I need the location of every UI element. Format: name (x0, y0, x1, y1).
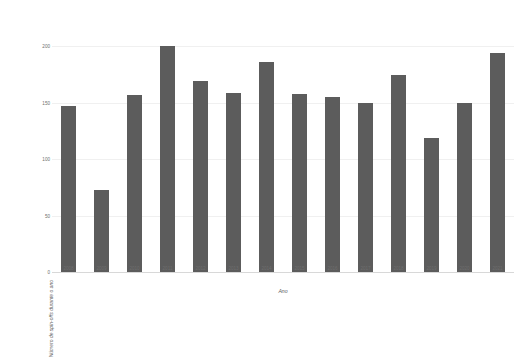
y-axis-tick-label: 150 (36, 100, 50, 105)
x-axis-tick-label: 2009 (96, 266, 106, 271)
y-axis-tick-label: 0 (36, 270, 50, 275)
y-axis-tick-label: 100 (36, 157, 50, 162)
x-axis-tick-label: 2008 (63, 266, 73, 271)
x-axis-tick-label: 2018 (393, 266, 403, 271)
bar (259, 62, 274, 272)
bar (391, 75, 406, 272)
bar (193, 81, 208, 272)
x-axis-tick-label: 2015 (294, 266, 304, 271)
bar (490, 53, 505, 272)
gridline (52, 103, 514, 104)
y-axis-tick-label: 50 (36, 213, 50, 218)
x-axis-tick-label: 2017 (360, 266, 370, 271)
plot-area: 050100150200250 200820092010201120122013… (52, 0, 514, 272)
x-axis-line (52, 272, 514, 273)
bar (61, 106, 76, 272)
x-axis-tick-label: 2011 (163, 266, 173, 271)
y-axis-title: Número de spin-offs durante o ano (48, 280, 54, 357)
gridline (52, 46, 514, 47)
x-axis-tick-label: 2016 (327, 266, 337, 271)
x-axis-tick-label: 2020 (459, 266, 469, 271)
bar (127, 95, 142, 272)
x-axis-tick-label: 2010 (129, 266, 139, 271)
x-axis-tick-label: 2019 (426, 266, 436, 271)
x-axis-tick-label: 2013 (228, 266, 238, 271)
x-axis-tick-label: 2021 (492, 266, 502, 271)
bar (160, 46, 175, 272)
x-axis-title: Ano (52, 288, 514, 294)
x-axis-tick-label: 2014 (261, 266, 271, 271)
bar (226, 93, 241, 272)
gridline (52, 159, 514, 160)
bar (424, 138, 439, 272)
x-axis-tick-label: 2012 (195, 266, 205, 271)
gridline (52, 216, 514, 217)
bar (457, 103, 472, 272)
y-axis-tick-label: 200 (36, 44, 50, 49)
bar (325, 97, 340, 272)
bar (94, 190, 109, 272)
bar (358, 103, 373, 272)
bar (292, 94, 307, 272)
